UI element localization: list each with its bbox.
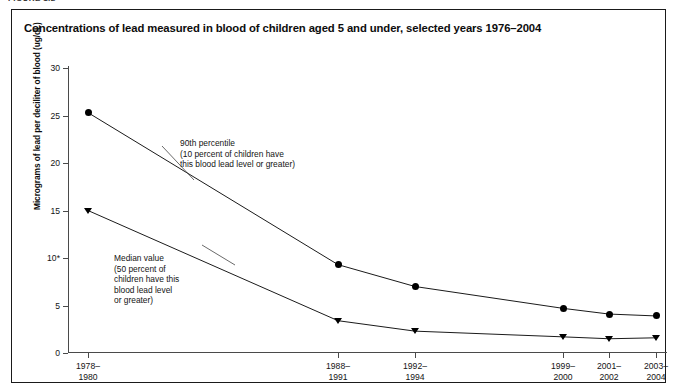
y-tick-label: 0 xyxy=(55,348,60,358)
annotation-median-value: Median value (50 percent of children hav… xyxy=(114,253,179,306)
annotation-90th-percentile: 90th percentile (10 percent of children … xyxy=(180,138,295,170)
data-point-circle xyxy=(412,283,419,290)
data-point-triangle xyxy=(334,318,342,324)
y-tick-label: 5 xyxy=(55,301,60,311)
y-tick xyxy=(63,211,68,212)
x-tick-label: 1992–1994 xyxy=(403,361,427,382)
y-tick-label: 30 xyxy=(50,63,60,73)
x-tick-label: 1999–2000 xyxy=(551,361,575,382)
y-tick xyxy=(63,353,68,354)
y-tick xyxy=(63,163,68,164)
y-tick-label: 25 xyxy=(50,111,60,121)
data-point-circle xyxy=(606,311,613,318)
x-tick-label: 2001–2002 xyxy=(597,361,621,382)
data-point-triangle xyxy=(84,208,92,214)
data-point-triangle xyxy=(652,335,660,341)
y-tick-label: 20 xyxy=(50,158,60,168)
y-tick xyxy=(63,306,68,307)
x-tick xyxy=(88,353,89,358)
data-point-triangle xyxy=(411,328,419,334)
x-axis-line xyxy=(68,352,667,353)
y-tick xyxy=(63,258,68,259)
x-tick xyxy=(415,353,416,358)
x-tick xyxy=(609,353,610,358)
y-tick-label: 10* xyxy=(47,253,60,263)
y-axis-line xyxy=(68,66,69,353)
data-point-circle xyxy=(560,305,567,312)
y-tick-label: 15 xyxy=(50,206,60,216)
y-tick xyxy=(63,116,68,117)
x-tick xyxy=(338,353,339,358)
x-tick-label: 2003–2004 xyxy=(644,361,668,382)
y-axis-title: Micrograms of lead per deciliter of bloo… xyxy=(32,22,42,210)
data-point-circle xyxy=(653,312,660,319)
x-tick xyxy=(563,353,564,358)
series-lines xyxy=(68,68,667,353)
x-tick xyxy=(656,353,657,358)
chart-title: Concentrations of lead measured in blood… xyxy=(24,22,541,34)
data-point-triangle xyxy=(559,334,567,340)
data-point-triangle xyxy=(605,336,613,342)
data-point-circle xyxy=(335,261,342,268)
x-tick-label: 1978–1980 xyxy=(76,361,100,382)
figure-number-tag: FIGURE 1.2 xyxy=(8,0,56,1)
data-point-circle xyxy=(85,109,92,116)
figure-panel: Concentrations of lead measured in blood… xyxy=(11,9,666,383)
plot-area: 0510*15202530 1978–19801988–19911992–199… xyxy=(68,68,667,353)
x-tick-label: 1988–1991 xyxy=(326,361,350,382)
y-tick xyxy=(63,68,68,69)
